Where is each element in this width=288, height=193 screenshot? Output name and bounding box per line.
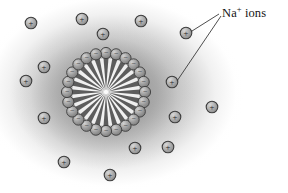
ion-11: + xyxy=(169,111,181,123)
head-charge-sign: − xyxy=(123,121,127,130)
surfactant-head: − xyxy=(110,124,121,135)
annotation-leader-lines xyxy=(177,14,221,81)
head-charge-sign: − xyxy=(76,59,80,68)
sodium-ion-charge-sign: + xyxy=(42,62,47,72)
head-charge-sign: − xyxy=(66,77,70,86)
head-charge-sign: − xyxy=(123,53,127,62)
ion-15: + xyxy=(104,169,116,181)
sodium-ion-charge-sign: + xyxy=(80,14,85,24)
sodium-ion-charge-sign: + xyxy=(42,113,47,123)
surfactant-head: − xyxy=(139,86,150,97)
head-charge-sign: − xyxy=(84,121,88,130)
ion-5: + xyxy=(180,27,192,39)
ion-10: + xyxy=(38,112,50,124)
na-ions-label: Na+ ions xyxy=(222,6,266,21)
scene-vector-layer: −−−−−−−−−−−−−−−−−−−−−−−− +++++++++++++++ xyxy=(0,0,288,193)
surfactant-head: − xyxy=(61,86,72,97)
ion-4: + xyxy=(135,15,147,27)
head-charge-sign: − xyxy=(131,59,135,68)
sodium-ion-charge-sign: + xyxy=(173,112,178,122)
head-charge-sign: − xyxy=(138,67,142,76)
surfactant-head: − xyxy=(63,96,74,107)
sodium-ion-charge-sign: + xyxy=(101,29,106,39)
leader-to-upper-ion xyxy=(192,14,219,31)
ion-2: + xyxy=(76,13,88,25)
ion-9: + xyxy=(206,101,218,113)
surfactant-head: − xyxy=(138,76,149,87)
ion-6: + xyxy=(38,61,50,73)
head-charge-sign: − xyxy=(114,125,118,134)
sodium-ion-charge-sign: + xyxy=(139,16,144,26)
surfactant-head: − xyxy=(90,49,101,60)
ion-12: + xyxy=(129,142,141,154)
head-charge-sign: − xyxy=(65,87,69,96)
sodium-ion-charge-sign: + xyxy=(133,143,138,153)
na-ions-label-prefix: Na xyxy=(222,6,237,20)
na-ions-label-suffix: ions xyxy=(242,6,266,20)
head-charge-sign: − xyxy=(142,97,146,106)
ion-14: + xyxy=(58,156,70,168)
sodium-ion-charge-sign: + xyxy=(184,28,189,38)
sodium-ion-charge-sign: + xyxy=(29,18,34,28)
head-charge-sign: − xyxy=(114,49,118,58)
sodium-ion-charge-sign: + xyxy=(62,157,67,167)
surfactant-head: − xyxy=(100,125,111,136)
ion-1: + xyxy=(25,17,37,29)
leader-to-lower-ion xyxy=(177,16,221,81)
head-charge-sign: − xyxy=(143,87,147,96)
head-charge-sign: − xyxy=(104,126,108,135)
sodium-ion-charge-sign: + xyxy=(210,102,215,112)
head-charge-sign: − xyxy=(84,53,88,62)
micelle: −−−−−−−−−−−−−−−−−−−−−−−− xyxy=(61,47,150,136)
head-charge-sign: − xyxy=(131,114,135,123)
head-charge-sign: − xyxy=(70,106,74,115)
head-charge-sign: − xyxy=(70,67,74,76)
ion-8: + xyxy=(166,76,178,88)
ion-3: + xyxy=(97,28,109,40)
head-charge-sign: − xyxy=(104,48,108,57)
surfactant-head: − xyxy=(100,47,111,58)
head-charge-sign: − xyxy=(138,106,142,115)
sodium-ion-charge-sign: + xyxy=(24,76,29,86)
head-charge-sign: − xyxy=(94,49,98,58)
ion-13: + xyxy=(162,141,174,153)
head-charge-sign: − xyxy=(94,125,98,134)
head-charge-sign: − xyxy=(76,114,80,123)
micelle-figure: −−−−−−−−−−−−−−−−−−−−−−−− +++++++++++++++… xyxy=(0,0,288,193)
sodium-ion-charge-sign: + xyxy=(108,170,113,180)
head-charge-sign: − xyxy=(142,77,146,86)
head-charge-sign: − xyxy=(66,97,70,106)
ion-7: + xyxy=(20,75,32,87)
sodium-ion-charge-sign: + xyxy=(170,77,175,87)
sodium-ion-charge-sign: + xyxy=(166,142,171,152)
